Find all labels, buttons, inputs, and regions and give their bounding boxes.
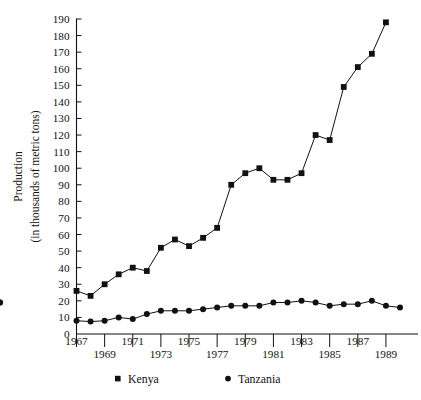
series-line-kenya: [77, 22, 386, 296]
x-axis-tick-label: 1973: [150, 348, 173, 360]
x-axis-tick-label: 1967: [65, 335, 88, 347]
data-point-marker: [397, 304, 403, 310]
data-point-marker: [299, 170, 305, 176]
data-point-marker: [242, 303, 248, 309]
series-kenya: [74, 19, 389, 298]
data-point-marker: [355, 301, 361, 307]
data-point-marker: [88, 319, 94, 325]
x-axis-tick-label: 1989: [375, 348, 398, 360]
data-point-marker: [172, 237, 178, 243]
y-axis-tick-label: 100: [53, 162, 70, 174]
data-point-marker: [144, 311, 150, 317]
y-axis-title-line1: Production: [12, 151, 24, 202]
data-point-marker: [0, 300, 3, 306]
x-axis-tick-label: 1971: [122, 335, 144, 347]
data-point-marker: [88, 293, 94, 299]
data-point-marker: [200, 235, 206, 241]
x-axis-tick-label: 1981: [262, 348, 284, 360]
x-axis-tick-label: 1983: [290, 335, 313, 347]
data-point-marker: [242, 170, 248, 176]
x-axis: 1967197119751979198319871969197319771981…: [65, 334, 418, 360]
y-axis-tick-label: 120: [53, 129, 70, 141]
y-axis-tick-label: 130: [53, 112, 70, 124]
data-point-marker: [355, 64, 361, 70]
y-axis-tick-label: 180: [53, 30, 70, 42]
data-point-marker: [256, 165, 262, 171]
y-axis-tick-label: 30: [58, 278, 70, 290]
data-point-marker: [130, 265, 136, 271]
y-axis-tick-label: 80: [58, 195, 70, 207]
data-point-marker: [158, 245, 164, 251]
data-point-marker: [144, 268, 150, 274]
x-axis-tick-label: 1979: [234, 335, 257, 347]
data-point-marker: [200, 306, 206, 312]
data-point-marker: [369, 298, 375, 304]
axis-titles: Production(in thousands of metric tons): [12, 110, 42, 242]
data-point-marker: [172, 308, 178, 314]
y-axis-tick-label: 90: [58, 179, 70, 191]
data-point-marker: [116, 314, 122, 320]
data-point-marker: [102, 281, 108, 287]
y-axis-tick-label: 20: [58, 295, 70, 307]
x-axis-tick-label: 1969: [93, 348, 116, 360]
data-point-marker: [313, 300, 319, 306]
data-point-marker: [369, 51, 375, 57]
data-point-marker: [383, 303, 389, 309]
y-axis-tick-label: 190: [53, 13, 70, 25]
series-line-tanzania: [77, 301, 401, 322]
x-axis-tick-label: 1977: [206, 348, 229, 360]
data-point-marker: [341, 84, 347, 90]
y-axis-tick-label: 150: [53, 79, 70, 91]
y-axis-tick-label: 70: [58, 212, 70, 224]
y-axis-tick-label: 60: [58, 229, 70, 241]
y-axis-tick-label: 170: [53, 46, 70, 58]
legend-label-kenya: Kenya: [128, 372, 160, 386]
y-axis-tick-label: 110: [53, 146, 70, 158]
y-axis-tick-label: 10: [58, 311, 70, 323]
legend-marker-square-kenya: [115, 376, 121, 382]
data-point-marker: [116, 271, 122, 277]
y-axis-tick-label: 50: [58, 245, 70, 257]
data-point-marker: [214, 304, 220, 310]
legend-label-tanzania: Tanzania: [238, 372, 281, 386]
legend-marker-circle-tanzania: [225, 376, 231, 382]
data-point-marker: [327, 137, 333, 143]
data-point-marker: [313, 132, 319, 138]
data-point-marker: [228, 182, 234, 188]
x-axis-tick-label: 1985: [318, 348, 341, 360]
data-point-marker: [299, 298, 305, 304]
y-axis-title-line2: (in thousands of metric tons): [29, 110, 42, 242]
data-point-marker: [383, 19, 389, 25]
data-point-marker: [74, 288, 80, 294]
chart-canvas: 0102030405060708090100110120130140150160…: [0, 0, 421, 400]
data-point-marker: [102, 318, 108, 324]
data-point-marker: [130, 316, 136, 322]
data-point-marker: [228, 303, 234, 309]
y-axis-tick-label: 140: [53, 96, 70, 108]
data-point-marker: [186, 243, 192, 249]
chart-legend: KenyaTanzania: [115, 372, 281, 386]
data-point-marker: [158, 308, 164, 314]
y-axis-tick-label: 160: [53, 63, 70, 75]
data-point-marker: [271, 177, 277, 183]
x-axis-tick-label: 1987: [347, 335, 370, 347]
x-axis-tick-label: 1975: [178, 335, 201, 347]
production-line-chart: 0102030405060708090100110120130140150160…: [0, 0, 421, 400]
data-point-marker: [214, 225, 220, 231]
data-point-marker: [270, 300, 276, 306]
data-point-marker: [284, 300, 290, 306]
data-point-marker: [256, 303, 262, 309]
data-point-marker: [74, 318, 80, 324]
data-point-marker: [327, 303, 333, 309]
data-point-marker: [341, 301, 347, 307]
data-point-marker: [285, 177, 291, 183]
y-axis-tick-label: 40: [58, 262, 70, 274]
data-point-marker: [186, 308, 192, 314]
